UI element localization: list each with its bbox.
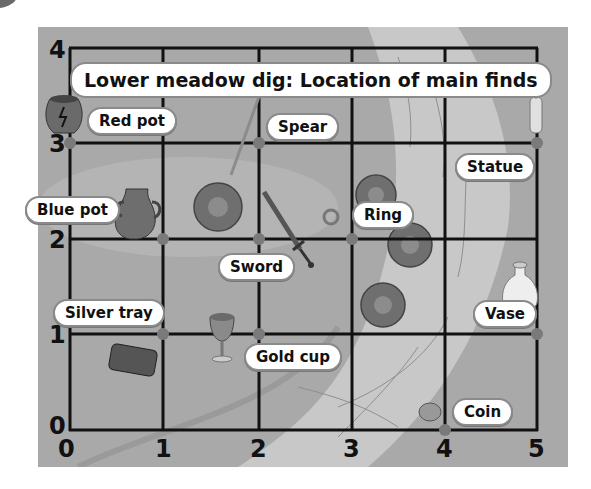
x-tick-3: 3	[343, 437, 360, 461]
silver-tray-icon	[108, 343, 158, 377]
label-red-pot: Red pot	[87, 107, 177, 135]
label-blue-pot: Blue pot	[25, 196, 120, 224]
label-sword: Sword	[218, 253, 295, 281]
red-pot-icon	[46, 95, 82, 133]
label-ring: Ring	[352, 201, 414, 229]
label-statue: Statue	[455, 153, 535, 181]
map-title: Lower meadow dig: Location of main finds	[70, 62, 552, 98]
y-tick-3: 3	[49, 132, 66, 156]
label-silver-tray: Silver tray	[53, 299, 165, 327]
x-tick-5: 5	[528, 437, 545, 461]
x-tick-2: 2	[250, 437, 267, 461]
y-tick-2: 2	[49, 228, 66, 252]
corner-badge	[0, 0, 18, 8]
x-tick-1: 1	[155, 437, 172, 461]
x-tick-0: 0	[58, 437, 75, 461]
coin-icon	[419, 403, 441, 421]
label-spear: Spear	[266, 113, 339, 141]
label-vase: Vase	[473, 300, 537, 328]
label-coin: Coin	[452, 398, 513, 426]
x-tick-4: 4	[436, 437, 453, 461]
gold-cup-icon	[210, 313, 234, 362]
y-tick-4: 4	[49, 38, 66, 62]
label-gold-cup: Gold cup	[244, 343, 342, 371]
